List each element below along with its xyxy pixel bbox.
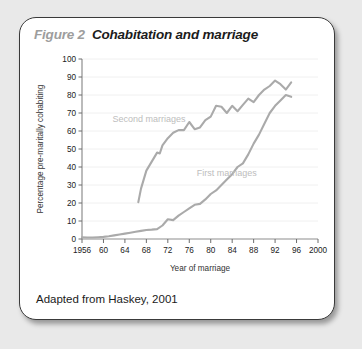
chart-y-axis: 0102030405060708090100 — [62, 55, 82, 244]
chart-gridlines — [82, 59, 318, 221]
figure-title: Figure 2Cohabitation and marriage — [34, 27, 258, 42]
svg-text:20: 20 — [67, 199, 77, 208]
svg-text:90: 90 — [67, 73, 77, 82]
svg-text:100: 100 — [62, 55, 76, 64]
line-chart: 0102030405060708090100 19566064687276808… — [25, 49, 331, 277]
figure-caption: Adapted from Haskey, 2001 — [36, 293, 178, 305]
y-axis-label: Percentage pre-maritally cohabiting — [36, 84, 45, 213]
series-label: First marriages — [197, 168, 258, 178]
chart-series-labels: Second marriagesFirst marriages — [113, 114, 258, 178]
svg-text:68: 68 — [142, 246, 152, 255]
figure-title-text: Cohabitation and marriage — [92, 27, 258, 42]
svg-text:40: 40 — [67, 163, 77, 172]
series-line — [138, 81, 291, 203]
svg-text:10: 10 — [67, 217, 77, 226]
svg-text:96: 96 — [292, 246, 302, 255]
svg-text:30: 30 — [67, 181, 77, 190]
svg-text:60: 60 — [99, 246, 109, 255]
chart-area: 0102030405060708090100 19566064687276808… — [25, 49, 331, 277]
svg-text:84: 84 — [228, 246, 238, 255]
svg-text:60: 60 — [67, 127, 77, 136]
svg-text:1956: 1956 — [73, 246, 92, 255]
x-axis-label: Year of marriage — [170, 264, 231, 273]
figure-card: Figure 2Cohabitation and marriage 010203… — [19, 17, 335, 320]
figure-page: Figure 2Cohabitation and marriage 010203… — [0, 0, 362, 349]
svg-text:92: 92 — [271, 246, 281, 255]
svg-text:0: 0 — [71, 235, 76, 244]
svg-text:88: 88 — [249, 246, 259, 255]
svg-text:80: 80 — [206, 246, 216, 255]
svg-text:50: 50 — [67, 145, 77, 154]
svg-text:2000: 2000 — [309, 246, 328, 255]
svg-text:76: 76 — [185, 246, 195, 255]
figure-number-label: Figure 2 — [34, 27, 85, 42]
chart-series-layer — [82, 81, 291, 238]
svg-text:80: 80 — [67, 91, 77, 100]
svg-text:72: 72 — [163, 246, 173, 255]
chart-x-axis: 1956606468727680848892962000 — [73, 239, 328, 255]
svg-text:70: 70 — [67, 109, 77, 118]
svg-text:64: 64 — [120, 246, 130, 255]
series-label: Second marriages — [113, 114, 187, 124]
